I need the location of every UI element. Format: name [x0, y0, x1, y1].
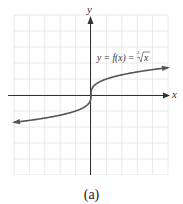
- function-label: y = f(x) = 3 x: [96, 50, 150, 64]
- x-axis-label: x: [171, 88, 177, 100]
- function-label-text: y = f(x) =: [96, 53, 134, 64]
- x-axis-arrow-icon: [163, 93, 170, 99]
- curve-arrow-left-icon: [12, 119, 20, 124]
- radicand: x: [143, 53, 149, 63]
- figure-caption: (a): [0, 187, 183, 203]
- function-plot: y x y = f(x) = 3 x: [0, 0, 183, 175]
- radical-index: 3: [137, 50, 140, 55]
- curve-arrow-right-icon: [162, 66, 170, 71]
- y-axis-label: y: [86, 3, 92, 15]
- y-axis-arrow-icon: [88, 16, 94, 24]
